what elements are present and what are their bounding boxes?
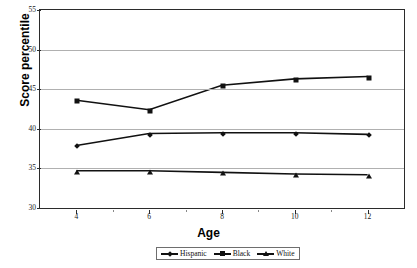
legend-item-hispanic[interactable]: Hispanic: [161, 249, 207, 258]
triangle-marker-icon: [74, 169, 80, 174]
triangle-marker-icon: [293, 172, 299, 177]
y-axis-tick-label: 55: [20, 6, 36, 14]
gridline: [40, 168, 404, 169]
x-axis-tick-label: 10: [285, 213, 305, 221]
square-marker-icon: [214, 249, 231, 258]
y-axis-tick-mark: [37, 10, 41, 11]
triangle-marker-icon: [147, 169, 153, 174]
square-marker-icon: [366, 75, 371, 80]
y-axis-tick-label: 35: [20, 164, 36, 172]
x-axis-minor-tick-mark: [258, 210, 259, 212]
triangle-marker-icon: [366, 173, 372, 178]
legend-label: White: [276, 249, 294, 258]
gridline: [40, 50, 404, 51]
y-axis-tick-label: 50: [20, 46, 36, 54]
y-axis-title: Score percentile: [18, 0, 34, 130]
plot-area: [39, 9, 405, 209]
series-layer: [40, 10, 404, 208]
legend-item-black[interactable]: Black: [214, 249, 251, 258]
legend-item-white[interactable]: White: [257, 249, 294, 258]
triangle-marker-icon: [257, 249, 274, 258]
y-axis-tick-label: 45: [20, 85, 36, 93]
series-line-black: [76, 77, 367, 110]
square-marker-icon: [293, 77, 298, 82]
legend-label: Hispanic: [180, 249, 207, 258]
square-marker-icon: [221, 84, 226, 89]
square-marker-icon: [75, 99, 80, 104]
y-axis-tick-mark: [37, 129, 41, 130]
x-axis-minor-tick-mark: [113, 210, 114, 212]
chart-legend: HispanicBlackWhite: [156, 247, 300, 260]
gridline: [40, 129, 404, 130]
y-axis-tick-mark: [37, 50, 41, 51]
x-axis-tick-label: 8: [212, 213, 232, 221]
x-axis-tick-label: 6: [139, 213, 159, 221]
y-axis-tick-label: 40: [20, 125, 36, 133]
y-axis-tick-mark: [37, 89, 41, 90]
y-axis-tick-mark: [37, 208, 41, 209]
diamond-marker-icon: [161, 249, 178, 258]
y-axis-tick-mark: [37, 168, 41, 169]
legend-label: Black: [233, 249, 251, 258]
gridline: [40, 89, 404, 90]
x-axis-tick-label: 4: [66, 213, 86, 221]
x-axis-title: Age: [0, 226, 417, 240]
square-marker-icon: [148, 108, 153, 113]
triangle-marker-icon: [220, 171, 226, 176]
x-axis-tick-label: 12: [358, 213, 378, 221]
chart-container: Score percentile 303540455055 4681012 Ag…: [0, 0, 417, 268]
x-axis-minor-tick-mark: [186, 210, 187, 212]
x-axis-minor-tick-mark: [331, 210, 332, 212]
y-axis-tick-label: 30: [20, 204, 36, 212]
